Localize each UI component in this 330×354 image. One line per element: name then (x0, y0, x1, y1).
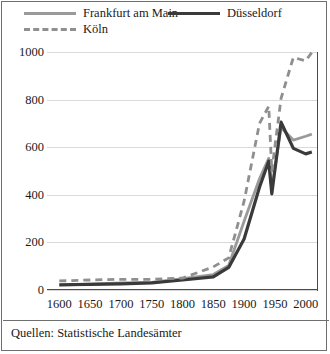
x-axis-tick-label: 2000 (293, 298, 318, 311)
series-line-frankfurt-am-main (59, 127, 312, 285)
chart-frame: Frankfurt am Main Düsseldorf Köln 020040… (1, 1, 327, 351)
x-axis-labels: 160016501700175018001850190019502000 (47, 298, 318, 316)
source-caption: Quellen: Statistische Landesämter (11, 326, 182, 340)
x-axis-tick-label: 1950 (262, 298, 287, 311)
x-axis-tick-label: 1850 (201, 298, 226, 311)
x-axis-tick-label: 1900 (232, 298, 257, 311)
x-axis-tick-label: 1750 (139, 298, 164, 311)
x-axis-tick-label: 1800 (170, 298, 195, 311)
caption-divider (3, 320, 329, 321)
x-axis-tick-label: 1600 (47, 298, 72, 311)
x-axis-tick-label: 1650 (78, 298, 103, 311)
x-axis-tick-label: 1700 (108, 298, 133, 311)
